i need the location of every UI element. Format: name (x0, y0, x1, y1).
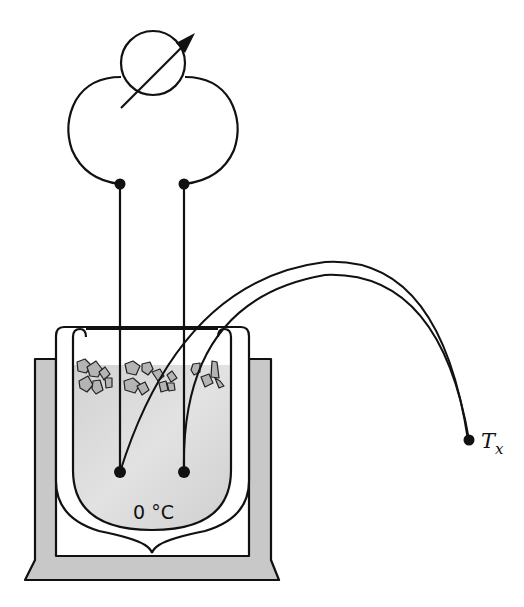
reference-junction-left (114, 466, 126, 478)
tx-subscript: x (495, 440, 504, 458)
left-lead (68, 77, 121, 184)
junction-dot-left (115, 179, 126, 190)
reference-junction-right (178, 466, 190, 478)
right-lead (184, 77, 238, 184)
tx-label: Tx (481, 429, 504, 458)
junction-dot-right (179, 179, 190, 190)
reference-temp-label: 0 °C (133, 501, 174, 523)
meter-circle (121, 31, 185, 95)
dewar-inner-wall (73, 329, 86, 337)
meter (121, 31, 195, 108)
measuring-junction (464, 435, 475, 446)
thermocouple-diagram: 0 °C Tx (0, 0, 524, 607)
